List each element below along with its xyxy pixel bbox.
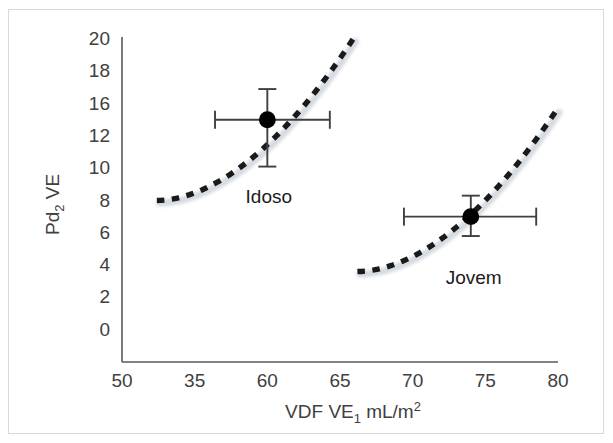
y-tick-label-4: 10 — [89, 157, 110, 179]
y-tick-label-6: 6 — [99, 222, 110, 244]
y-tick-label-0: 20 — [89, 28, 110, 50]
trend-curve-shadow-jovem — [360, 113, 559, 275]
y-tick-label-2: 16 — [89, 93, 110, 115]
y-tick-label-9: 0 — [99, 319, 110, 341]
x-tick-label-0: 50 — [111, 370, 132, 392]
y-tick-label-1: 18 — [89, 60, 110, 82]
series-label-idoso: Idoso — [246, 186, 292, 208]
error-bar-layer — [215, 89, 536, 236]
x-axis-title: VDF VE1 mL/m2 — [285, 399, 421, 426]
series-label-jovem: Jovem — [446, 267, 502, 289]
y-tick-label-7: 4 — [99, 254, 110, 276]
data-point-jovem[interactable] — [462, 208, 479, 225]
chart-figure: 20181612108642050356065707580Pd2 VEVDF V… — [0, 0, 613, 443]
data-point-idoso[interactable] — [259, 111, 276, 128]
y-tick-label-5: 8 — [99, 190, 110, 212]
trend-curve-shadow-idoso — [159, 42, 355, 204]
x-tick-label-6: 80 — [547, 370, 568, 392]
x-tick-label-2: 60 — [257, 370, 278, 392]
y-tick-label-3: 12 — [89, 125, 110, 147]
trend-curve-layer — [157, 39, 559, 274]
x-tick-label-1: 35 — [184, 370, 205, 392]
x-tick-label-4: 70 — [402, 370, 423, 392]
y-axis-title: Pd2 VE — [42, 174, 67, 235]
x-tick-label-3: 65 — [329, 370, 350, 392]
trend-curve-jovem — [357, 110, 556, 272]
x-tick-label-5: 75 — [475, 370, 496, 392]
y-tick-label-8: 2 — [99, 286, 110, 308]
